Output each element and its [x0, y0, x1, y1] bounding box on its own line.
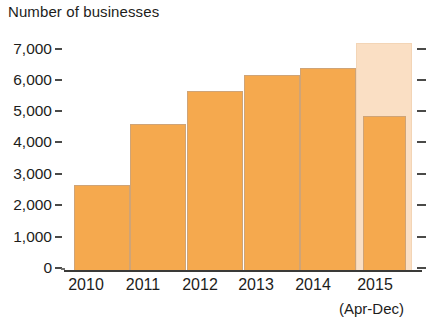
- x-axis-line: [64, 270, 422, 272]
- y-tick-7000: 7,000: [13, 40, 62, 58]
- y-tick-2000-label: 2,000: [13, 196, 52, 213]
- y-tick-dash-icon: [55, 141, 62, 143]
- y-tick-7000-label: 7,000: [13, 40, 52, 57]
- y-tick-6000-label: 6,000: [13, 71, 52, 88]
- right-tick-2000: [417, 204, 426, 206]
- y-tick-3000-label: 3,000: [13, 165, 52, 182]
- y-tick-dash-icon: [55, 236, 62, 238]
- right-tick-4000: [417, 141, 426, 143]
- bar-2015: [363, 116, 406, 271]
- right-tick-0: [417, 267, 426, 269]
- y-tick-0: 0: [43, 259, 62, 277]
- y-tick-4000: 4,000: [13, 133, 62, 151]
- right-tick-1000: [417, 236, 426, 238]
- y-tick-4000-label: 4,000: [13, 133, 52, 150]
- right-tick-6000: [417, 79, 426, 81]
- bar-2014: [300, 68, 356, 271]
- bar-2011: [130, 124, 186, 271]
- right-tick-3000: [417, 173, 426, 175]
- bar-chart: Number of businesses 7,000 6,000 5,000 4…: [0, 0, 428, 325]
- bar-2013: [244, 75, 300, 271]
- right-tick-7000: [417, 48, 426, 50]
- x-axis-note: (Apr-Dec): [339, 300, 404, 317]
- y-tick-dash-icon: [55, 79, 62, 81]
- y-tick-5000-label: 5,000: [13, 102, 52, 119]
- x-label-2015: 2015: [335, 276, 415, 294]
- y-tick-dash-icon: [55, 204, 62, 206]
- bar-2010: [74, 185, 130, 271]
- bar-2012: [187, 91, 243, 271]
- y-tick-dash-icon: [55, 173, 62, 175]
- y-tick-2000: 2,000: [13, 196, 62, 214]
- right-tick-5000: [417, 110, 426, 112]
- y-tick-1000-label: 1,000: [13, 228, 52, 245]
- y-tick-0-label: 0: [43, 259, 52, 276]
- x-axis-left-cap: [61, 268, 65, 270]
- y-tick-6000: 6,000: [13, 71, 62, 89]
- y-tick-1000: 1,000: [13, 228, 62, 246]
- y-tick-3000: 3,000: [13, 165, 62, 183]
- y-tick-5000: 5,000: [13, 102, 62, 120]
- y-tick-dash-icon: [55, 110, 62, 112]
- plot-area: [69, 40, 416, 271]
- y-tick-dash-icon: [55, 48, 62, 50]
